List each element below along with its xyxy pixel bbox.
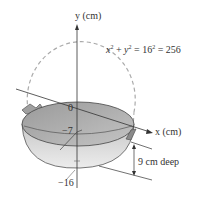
x-axis-label: x (cm) [155,127,181,137]
eq-plus: + [116,44,122,55]
depth-label: 9 cm deep [138,157,179,167]
y-axis-arrowhead [75,24,79,30]
x-axis-arrowhead [146,129,153,134]
water-level-label: −7 [62,126,73,136]
depth-arrow-bottom [132,171,136,176]
eq-equals-1: = [134,44,140,55]
bottom-label: −16 [58,178,74,188]
eq-value: 256 [166,44,181,55]
depth-guide-bottom [99,166,152,180]
y-axis-label: y (cm) [75,11,101,21]
sphere-equation: x2 + y2 = 162 = 256 [106,44,181,55]
eq-equals-2: = [158,44,164,55]
depth-arrow-top [132,144,136,149]
wok-diagram [0,0,205,198]
origin-label: 0 [68,103,73,113]
eq-radius: 16 [142,44,152,55]
